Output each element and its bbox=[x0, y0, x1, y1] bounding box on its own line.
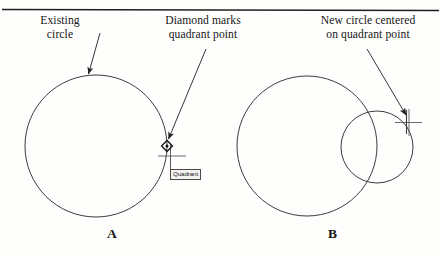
callout-new-circle-centered: New circle centered on quadrant point bbox=[298, 14, 438, 41]
callout-diamond-marks-line1: Diamond marks bbox=[141, 14, 265, 28]
callout-diamond-marks-line2: quadrant point bbox=[141, 28, 265, 42]
panel-label-a: A bbox=[107, 226, 117, 242]
panel-b-existing-circle bbox=[237, 76, 377, 216]
callout-diamond-marks-quadrant-point: Diamond marks quadrant point bbox=[141, 14, 265, 41]
callout-existing-circle-line1: Existing bbox=[18, 14, 102, 28]
callout-new-circle-line1: New circle centered bbox=[298, 14, 438, 28]
quadrant-snap-tooltip: Quadrant bbox=[170, 169, 201, 180]
leader-diamond-marks bbox=[169, 49, 207, 139]
panel-label-b: B bbox=[328, 226, 337, 242]
top-horizontal-rule bbox=[2, 10, 439, 11]
callout-existing-circle-line2: circle bbox=[18, 28, 102, 42]
quadrant-snap-tooltip-label: Quadrant bbox=[173, 170, 198, 177]
panel-b-crosshair-cursor bbox=[395, 109, 422, 136]
leader-new-circle bbox=[367, 49, 406, 115]
callout-existing-circle: Existing circle bbox=[18, 14, 102, 41]
panel-a-existing-circle bbox=[25, 75, 167, 217]
callout-new-circle-line2: on quadrant point bbox=[298, 28, 438, 42]
figure-canvas: Existing circle Diamond marks quadrant p… bbox=[0, 0, 441, 257]
